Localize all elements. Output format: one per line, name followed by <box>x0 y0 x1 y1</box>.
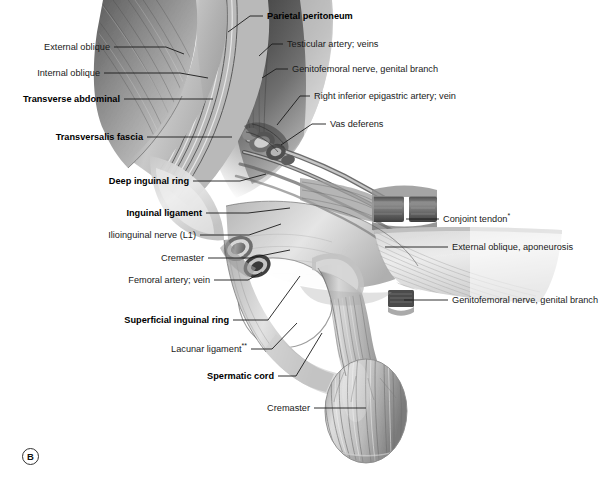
label-text: Right inferior epigastric artery; vein <box>314 91 456 101</box>
label-text: Cremaster <box>161 253 204 263</box>
label-ilioinguinal-nerve: Ilioinguinal nerve (L1) <box>108 231 196 240</box>
label-external-oblique: External oblique <box>44 43 110 52</box>
anatomy-figure-panel: External obliqueInternal obliqueTransver… <box>0 0 612 477</box>
label-text: Genitofemoral nerve, genital branch <box>292 64 438 74</box>
label-right-inferior-epigastric: Right inferior epigastric artery; vein <box>314 92 456 101</box>
label-inguinal-ligament: Inguinal ligament <box>126 209 202 218</box>
label-genitofemoral-nerve-genital-branch-upper: Genitofemoral nerve, genital branch <box>292 65 438 74</box>
label-parietal-peritoneum: Parietal peritoneum <box>267 12 353 21</box>
label-superficial-inguinal-ring: Superficial inguinal ring <box>124 316 229 325</box>
panel-letter-badge: B <box>22 448 39 465</box>
label-text: Spermatic cord <box>207 371 274 381</box>
label-cremaster-upper: Cremaster <box>161 254 204 263</box>
label-text: Deep inguinal ring <box>109 176 189 186</box>
label-footnote-marker: * <box>507 212 510 219</box>
label-text: Femoral artery; vein <box>128 275 210 285</box>
label-text: Superficial inguinal ring <box>124 315 229 325</box>
label-text: Inguinal ligament <box>126 208 202 218</box>
label-text: Ilioinguinal nerve (L1) <box>108 230 196 240</box>
label-text: Genitofemoral nerve, genital branch <box>452 295 598 305</box>
label-lacunar-ligament: Lacunar ligament** <box>171 345 247 354</box>
label-text: External oblique, aponeurosis <box>452 242 573 252</box>
label-text: Conjoint tendon <box>443 214 507 224</box>
label-text: Internal oblique <box>37 68 100 78</box>
label-text: Vas deferens <box>330 119 383 129</box>
label-deep-inguinal-ring: Deep inguinal ring <box>109 177 189 186</box>
label-footnote-marker: ** <box>242 342 247 349</box>
label-vas-deferens: Vas deferens <box>330 120 383 129</box>
label-text: Cremaster <box>267 403 310 413</box>
label-external-oblique-aponeurosis: External oblique, aponeurosis <box>452 243 573 252</box>
label-conjoint-tendon: Conjoint tendon* <box>443 215 510 224</box>
label-cremaster-lower: Cremaster <box>267 404 310 413</box>
label-internal-oblique: Internal oblique <box>37 69 100 78</box>
label-text: Lacunar ligament <box>171 344 241 354</box>
label-spermatic-cord: Spermatic cord <box>207 372 274 381</box>
label-text: External oblique <box>44 42 110 52</box>
label-text: Testicular artery; veins <box>287 39 378 49</box>
label-text: Transverse abdominal <box>23 94 120 104</box>
label-genitofemoral-nerve-genital-branch-lower: Genitofemoral nerve, genital branch <box>452 296 598 305</box>
label-testicular-artery-veins: Testicular artery; veins <box>287 40 378 49</box>
label-femoral-artery-vein: Femoral artery; vein <box>128 276 210 285</box>
label-transverse-abdominal: Transverse abdominal <box>23 95 120 104</box>
label-transversalis-fascia: Transversalis fascia <box>56 133 143 142</box>
label-text: Transversalis fascia <box>56 132 143 142</box>
label-text: Parietal peritoneum <box>267 11 353 21</box>
